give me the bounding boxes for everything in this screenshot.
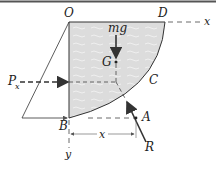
fluid-region xyxy=(69,22,165,118)
label-O: O xyxy=(64,6,74,20)
label-x-axis: x xyxy=(204,15,211,28)
label-y-axis: y xyxy=(64,148,72,161)
label-R: R xyxy=(144,140,154,154)
label-D: D xyxy=(157,6,168,20)
free-body-diagram: O D x mg G C P x A B x R y xyxy=(0,0,216,170)
centroid-G-point xyxy=(115,61,118,64)
label-B: B xyxy=(58,119,68,133)
label-C: C xyxy=(149,73,158,87)
label-G: G xyxy=(102,55,112,69)
label-P-subscript: x xyxy=(15,82,20,91)
label-x-dimension: x xyxy=(99,128,106,141)
point-A xyxy=(135,117,138,120)
pressure-triangle-edge xyxy=(22,22,69,118)
label-A: A xyxy=(141,110,151,124)
label-mg: mg xyxy=(108,21,127,35)
